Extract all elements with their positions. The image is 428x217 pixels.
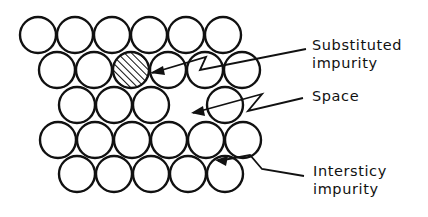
atom [150,52,186,88]
atom [168,17,204,53]
atom [76,52,112,88]
atom [96,87,132,123]
label-space: Space [312,87,359,105]
atom [114,122,150,158]
label-line: Space [312,87,359,105]
atom [20,17,56,53]
atom [131,17,167,53]
label-line: impurity [312,54,402,72]
label-line: Substituted [312,36,402,54]
substituted-atom [113,52,149,88]
atom [94,17,130,53]
atom [151,122,187,158]
atom [40,122,76,158]
atom [133,87,169,123]
atom [59,87,95,123]
label-line: impurity [313,180,387,198]
atom [170,156,206,192]
atom [225,122,261,158]
atom [205,17,241,53]
atom [133,156,169,192]
label-substituted-impurity: Substituted impurity [312,36,402,72]
atom [39,52,75,88]
atom [59,156,95,192]
atom [57,17,93,53]
label-line: Interstіcy [313,162,387,180]
arrowhead-icon [191,106,205,116]
label-interstitial-impurity: Interstіcy impurity [313,162,387,198]
atom [188,122,224,158]
atom [96,156,132,192]
atom [224,52,260,88]
atom [77,122,113,158]
